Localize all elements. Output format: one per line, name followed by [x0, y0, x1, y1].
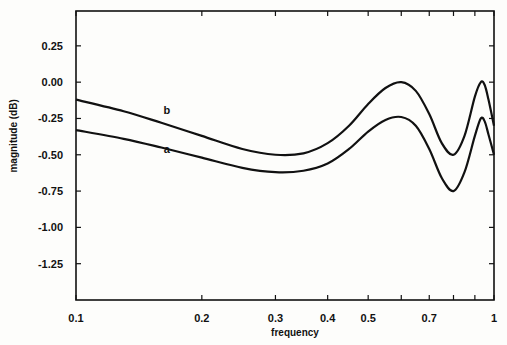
y-tick-label: -0.25	[38, 112, 63, 124]
y-tick-label: -0.75	[38, 185, 63, 197]
x-axis-label: frequency	[271, 327, 319, 338]
x-tick-label: 0.4	[320, 312, 336, 324]
series-line-a	[76, 117, 494, 191]
series-label-a: a	[164, 143, 171, 155]
x-tick-label: 0.5	[361, 312, 376, 324]
y-tick-label: 0.25	[42, 40, 63, 52]
series-line-b	[76, 81, 494, 155]
chart-container: 0.250.00-0.25-0.50-0.75-1.00-1.250.10.20…	[0, 0, 507, 345]
x-tick-label: 0.1	[68, 312, 83, 324]
series-label-b: b	[164, 104, 171, 116]
x-tick-label: 0.7	[422, 312, 437, 324]
x-tick-label: 1	[491, 312, 497, 324]
y-tick-label: -1.00	[38, 221, 63, 233]
x-tick-label: 0.3	[268, 312, 283, 324]
y-tick-label: -1.25	[38, 258, 63, 270]
y-tick-label: -0.50	[38, 149, 63, 161]
y-axis-label: magnitude (dB)	[8, 99, 19, 172]
y-tick-label: 0.00	[42, 76, 63, 88]
x-tick-label: 0.2	[194, 312, 209, 324]
line-chart: 0.250.00-0.25-0.50-0.75-1.00-1.250.10.20…	[0, 0, 507, 345]
